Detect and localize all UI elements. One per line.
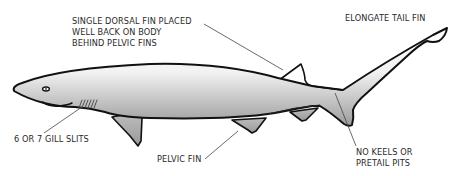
leader-gills	[44, 107, 82, 133]
label-keels-line-2: PRETAIL PITS	[356, 158, 412, 169]
pelvic-fin	[232, 118, 266, 133]
label-pelvic-fin-line-1: PELVIC FIN	[157, 154, 201, 165]
label-dorsal-fin-line-3: BEHIND PELVIC FINS	[72, 38, 192, 49]
label-keels: NO KEELS OR PRETAIL PITS	[356, 147, 412, 169]
label-tail-fin: ELONGATE TAIL FIN	[345, 13, 426, 24]
label-gill-slits-line-1: 6 OR 7 GILL SLITS	[14, 134, 89, 145]
shark-diagram: SINGLE DORSAL FIN PLACED WELL BACK ON BO…	[0, 0, 458, 176]
leader-dorsal	[204, 24, 283, 70]
label-dorsal-fin: SINGLE DORSAL FIN PLACED WELL BACK ON BO…	[72, 16, 192, 49]
label-pelvic-fin: PELVIC FIN	[157, 154, 201, 165]
eye-pupil	[45, 88, 47, 90]
label-gill-slits: 6 OR 7 GILL SLITS	[14, 134, 89, 145]
label-dorsal-fin-line-1: SINGLE DORSAL FIN PLACED	[72, 16, 192, 27]
leader-pelvic	[205, 131, 238, 159]
label-keels-line-1: NO KEELS OR	[356, 147, 412, 158]
label-tail-fin-line-1: ELONGATE TAIL FIN	[345, 13, 426, 24]
label-dorsal-fin-line-2: WELL BACK ON BODY	[72, 27, 192, 38]
